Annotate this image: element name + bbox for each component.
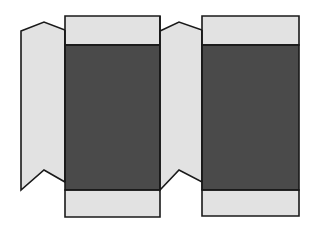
center-glue-flap[interactable] (160, 22, 202, 190)
center-section (160, 22, 202, 190)
right-panel-body[interactable] (202, 45, 299, 190)
left-panel-top-flap[interactable] (65, 16, 160, 45)
dieline-canvas (0, 0, 315, 235)
left-glue-flap[interactable] (21, 22, 65, 190)
left-panel-bottom-flap[interactable] (65, 190, 160, 217)
right-panel-bottom-flap[interactable] (202, 190, 299, 216)
right-panel-top-flap[interactable] (202, 16, 299, 45)
right-section (202, 16, 299, 216)
left-panel-body[interactable] (65, 45, 160, 190)
